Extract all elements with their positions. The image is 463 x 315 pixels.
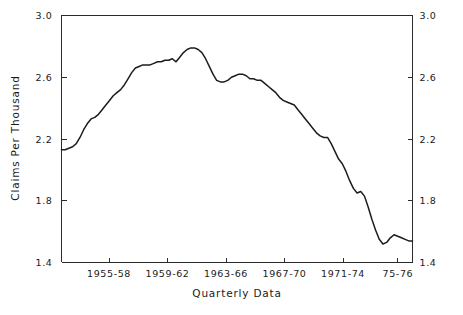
x-tick-label: 1959-62 <box>146 268 190 279</box>
y-tick-label-left: 1.8 <box>36 195 53 206</box>
axes-group <box>62 15 413 263</box>
x-ticks: 1955-581959-621963-661967-701971-7475-76 <box>87 258 413 279</box>
y-tick-label-right: 3.0 <box>420 10 437 21</box>
x-tick-label: 1955-58 <box>87 268 131 279</box>
y-tick-label-left: 2.6 <box>36 72 53 83</box>
y-tick-label-left: 2.2 <box>36 134 53 145</box>
y-ticks-right: 1.41.82.22.63.0 <box>408 10 437 268</box>
y-tick-label-left: 1.4 <box>36 257 53 268</box>
y-axis-title: Claims Per Thousand <box>9 75 21 200</box>
y-tick-label-right: 1.8 <box>420 195 437 206</box>
x-axis-title: Quarterly Data <box>192 287 281 299</box>
data-series-line <box>62 48 413 244</box>
chart-container: 1.41.82.22.63.0 1.41.82.22.63.0 1955-581… <box>0 0 463 315</box>
x-tick-label: 1967-70 <box>263 268 307 279</box>
y-tick-label-right: 1.4 <box>420 257 437 268</box>
line-chart: 1.41.82.22.63.0 1.41.82.22.63.0 1955-581… <box>0 0 463 315</box>
y-tick-label-left: 3.0 <box>36 10 53 21</box>
x-tick-label: 1971-74 <box>321 268 365 279</box>
x-tick-label: 1963-66 <box>204 268 248 279</box>
x-tick-label: 75-76 <box>383 268 414 279</box>
y-tick-label-right: 2.2 <box>420 134 437 145</box>
y-tick-label-right: 2.6 <box>420 72 437 83</box>
